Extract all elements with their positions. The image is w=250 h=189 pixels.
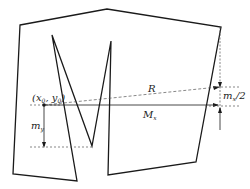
r-label: R — [147, 83, 156, 94]
r-arrowhead — [213, 86, 220, 90]
my-label: my — [31, 120, 44, 133]
mx-arrowhead — [213, 103, 219, 107]
centroid-label: (x0, y0) — [32, 92, 65, 104]
mx-half-up-arrowhead — [218, 107, 222, 113]
m-shape-diagram: (x0, y0) R Mx my mx/2 — [0, 0, 250, 189]
m-shape-outline — [13, 9, 221, 181]
mx-half-label: mx/2 — [223, 90, 246, 102]
r-dashed-line — [44, 87, 218, 105]
mx-label: Mx — [142, 109, 157, 121]
